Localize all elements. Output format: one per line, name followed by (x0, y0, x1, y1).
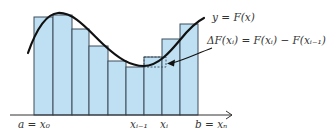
bar-4 (89, 46, 108, 115)
x-i-minus-1-label: xᵢ₋₁ (130, 119, 148, 130)
bar-5 (108, 61, 126, 115)
bar-2 (53, 15, 72, 115)
x-i-label: xᵢ (160, 119, 168, 130)
a-equals-x0-label: a = x₀ (18, 119, 50, 130)
b-equals-xn-label: b = xₙ (195, 119, 227, 130)
delta-formula-label: ΔF(xᵢ) = F(xᵢ) − F(xᵢ₋₁) (207, 35, 326, 46)
bar-6 (126, 67, 144, 115)
riemann-diagram (0, 0, 335, 137)
bar-3 (72, 29, 89, 115)
curve-label: y = F(x) (212, 12, 255, 23)
